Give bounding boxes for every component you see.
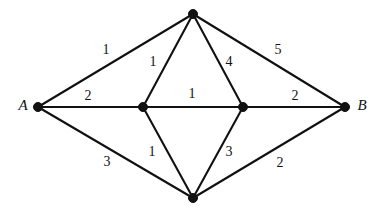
- graph-vertex: [341, 103, 350, 112]
- edge-weight-label: 1: [150, 55, 157, 69]
- edge-weight-label: 5: [275, 43, 282, 57]
- graph-vertex: [139, 103, 148, 112]
- edge-weight-label: 1: [189, 87, 196, 101]
- graph-vertex: [239, 103, 248, 112]
- graph-edge: [193, 14, 345, 107]
- graph-edge: [38, 107, 193, 198]
- edge-weight-label: 3: [104, 155, 111, 169]
- graph-vertex: [189, 194, 198, 203]
- weighted-graph-diagram: 12314511322 AB: [0, 0, 382, 213]
- graph-canvas: [0, 0, 382, 213]
- edge-weight-label: 1: [149, 145, 156, 159]
- vertex-label-b: B: [357, 98, 366, 113]
- graph-edge: [193, 107, 243, 198]
- edges-layer: [38, 14, 345, 198]
- graph-edge: [193, 14, 243, 107]
- edge-weight-label: 2: [292, 89, 299, 103]
- graph-vertex: [34, 103, 43, 112]
- edge-weight-label: 1: [103, 43, 110, 57]
- edge-weight-label: 4: [226, 55, 233, 69]
- edge-weight-label: 2: [277, 156, 284, 170]
- graph-edge: [193, 107, 345, 198]
- graph-edge: [38, 14, 193, 107]
- edge-weight-label: 3: [226, 145, 233, 159]
- edge-weight-label: 2: [85, 89, 92, 103]
- graph-vertex: [189, 10, 198, 19]
- vertex-label-a: A: [18, 98, 27, 113]
